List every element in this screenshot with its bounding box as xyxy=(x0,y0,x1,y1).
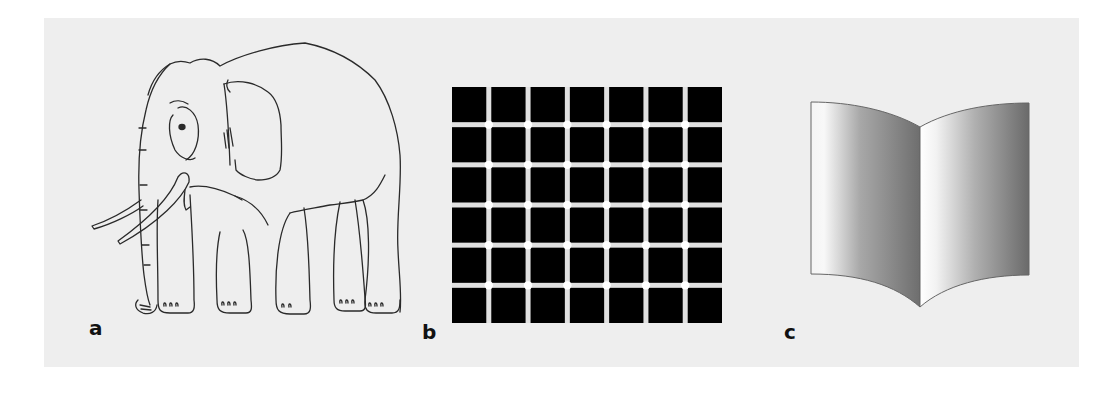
open-book-illustration xyxy=(0,0,1113,394)
panel-label-c: c xyxy=(784,322,796,342)
book-left-page xyxy=(811,102,920,307)
book-right-page xyxy=(920,103,1029,307)
